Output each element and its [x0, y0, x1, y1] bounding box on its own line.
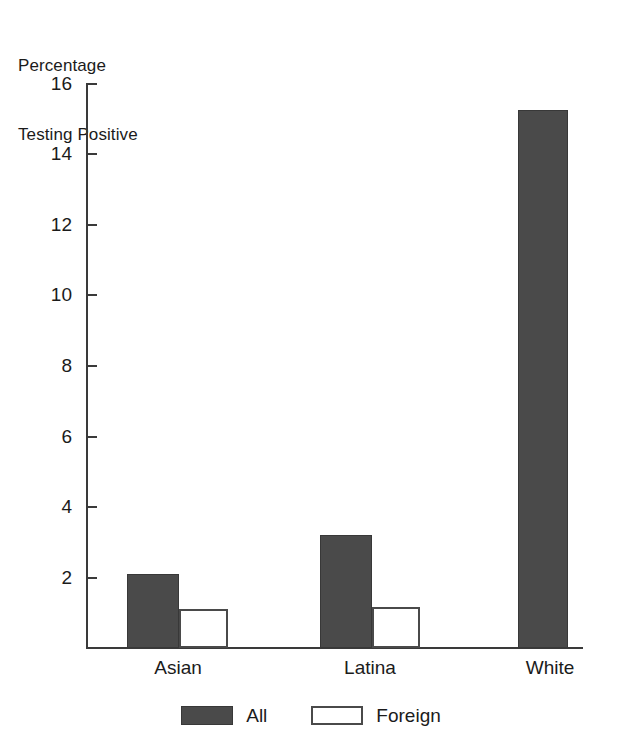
plot-area: 16 14 12 10 8 6 4 2 Asian Latina White	[0, 0, 622, 749]
x-axis-label-asian: Asian	[128, 657, 228, 679]
y-tick-10	[86, 294, 97, 296]
y-tick-label-10: 10	[12, 285, 72, 304]
y-tick-label-4: 4	[12, 497, 72, 516]
y-tick-label-8: 8	[12, 356, 72, 375]
bar-asian-foreign	[179, 609, 228, 648]
bar-latina-all	[320, 535, 372, 648]
legend-swatch-all-icon	[181, 706, 233, 725]
y-tick-label-12: 12	[12, 215, 72, 234]
x-axis-label-white: White	[500, 657, 600, 679]
y-tick-label-16: 16	[12, 74, 72, 93]
legend-label-all: All	[246, 706, 267, 725]
y-tick-16	[86, 83, 97, 85]
legend-label-foreign: Foreign	[376, 706, 440, 725]
legend-item-foreign: Foreign	[311, 706, 440, 725]
x-axis-label-latina: Latina	[320, 657, 420, 679]
y-tick-label-2: 2	[12, 568, 72, 587]
y-tick-4	[86, 506, 97, 508]
y-tick-8	[86, 365, 97, 367]
bar-white-all	[518, 110, 568, 648]
bar-latina-foreign	[372, 607, 420, 648]
y-tick-6	[86, 436, 97, 438]
legend-swatch-foreign-icon	[311, 706, 363, 725]
y-tick-14	[86, 153, 97, 155]
chart-legend: All Foreign	[0, 706, 622, 725]
y-tick-12	[86, 224, 97, 226]
legend-item-all: All	[181, 706, 267, 725]
y-tick-2	[86, 577, 97, 579]
bar-asian-all	[127, 574, 179, 648]
y-tick-label-14: 14	[12, 144, 72, 163]
bar-chart: Percentage Testing Positive 16 14 12 10 …	[0, 0, 622, 749]
y-tick-label-6: 6	[12, 427, 72, 446]
